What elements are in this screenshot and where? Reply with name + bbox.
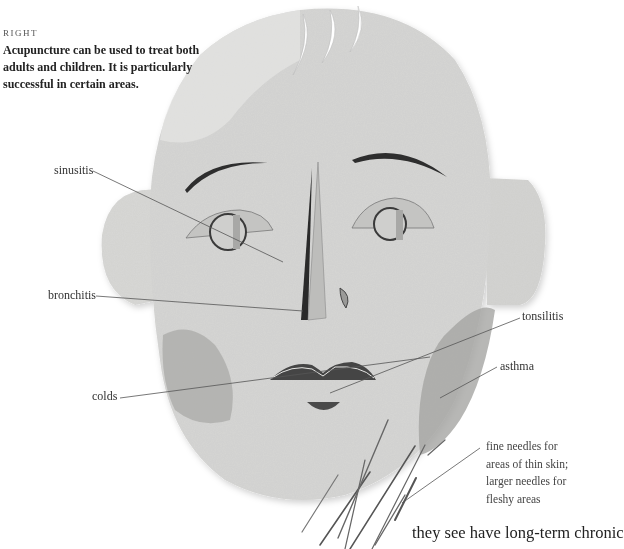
body-text-fragment: they see have long-term chronic <box>412 523 624 543</box>
label-bronchitis: bronchitis <box>48 288 96 303</box>
needle-note: fine needles for areas of thin skin; lar… <box>486 438 568 508</box>
label-tonsilitis: tonsilitis <box>522 309 563 324</box>
needle-note-line-2: areas of thin skin; <box>486 456 568 474</box>
caption-kicker: RIGHT <box>3 28 203 38</box>
label-sinusitis: sinusitis <box>54 163 93 178</box>
needle-note-line-4: fleshy areas <box>486 491 568 509</box>
label-colds: colds <box>92 389 117 404</box>
right-ear <box>485 178 545 305</box>
caption-text: Acupuncture can be used to treat both ad… <box>3 42 203 93</box>
label-asthma: asthma <box>500 359 534 374</box>
needle-note-line-1: fine needles for <box>486 438 568 456</box>
caption-block: RIGHT Acupuncture can be used to treat b… <box>3 28 203 93</box>
needle-note-line-3: larger needles for <box>486 473 568 491</box>
left-eye-iris <box>210 214 246 250</box>
